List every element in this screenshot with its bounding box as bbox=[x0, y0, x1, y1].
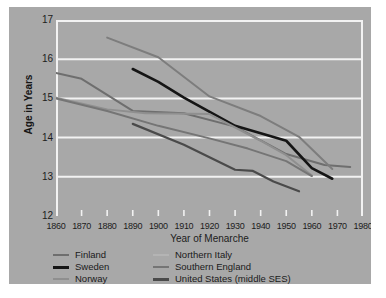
x-tick-label: 1910 bbox=[174, 221, 193, 231]
x-axis-tick-labels: 1860187018801890190019101920193019401950… bbox=[56, 218, 363, 234]
legend-label: Southern England bbox=[175, 261, 251, 273]
legend-column-right: Northern ItalySouthern EnglandUnited Sta… bbox=[153, 249, 291, 284]
legend-swatch-icon bbox=[53, 266, 69, 269]
legend-item: Northern Italy bbox=[153, 249, 291, 261]
y-tick-label: 13 bbox=[33, 172, 53, 182]
x-tick-label: 1940 bbox=[251, 221, 270, 231]
x-axis-title: Year of Menarche bbox=[56, 233, 363, 244]
x-tick-label: 1870 bbox=[72, 221, 91, 231]
x-tick-label: 1970 bbox=[328, 221, 347, 231]
legend-label: Sweden bbox=[75, 261, 109, 273]
x-tick-label: 1980 bbox=[354, 221, 371, 231]
y-axis-title: Age in Years bbox=[23, 60, 34, 150]
x-tick-label: 1900 bbox=[149, 221, 168, 231]
legend-swatch-icon bbox=[53, 254, 69, 256]
legend-label: Finland bbox=[75, 249, 106, 261]
legend-swatch-icon bbox=[53, 278, 69, 280]
chart-legend: FinlandSwedenNorway Northern ItalySouthe… bbox=[53, 249, 353, 284]
legend-item: Sweden bbox=[53, 261, 109, 273]
legend-label: Northern Italy bbox=[175, 249, 232, 261]
y-tick-label: 17 bbox=[33, 15, 53, 25]
y-tick-label: 14 bbox=[33, 133, 53, 143]
legend-swatch-icon bbox=[153, 266, 169, 268]
x-tick-label: 1860 bbox=[47, 221, 66, 231]
chart-figure: 171615141312 Age in Years 18601870188018… bbox=[9, 7, 371, 284]
series-line bbox=[133, 69, 333, 179]
legend-swatch-icon bbox=[153, 254, 169, 256]
legend-item: Norway bbox=[53, 273, 109, 284]
legend-label: United States (middle SES) bbox=[175, 273, 291, 284]
series-line bbox=[107, 38, 332, 169]
x-tick-label: 1930 bbox=[226, 221, 245, 231]
plot-area bbox=[56, 20, 363, 216]
x-tick-label: 1890 bbox=[123, 221, 142, 231]
x-tick-label: 1960 bbox=[302, 221, 321, 231]
legend-item: Southern England bbox=[153, 261, 291, 273]
x-tick-label: 1920 bbox=[200, 221, 219, 231]
legend-item: Finland bbox=[53, 249, 109, 261]
legend-column-left: FinlandSwedenNorway bbox=[53, 249, 109, 284]
y-tick-label: 12 bbox=[33, 211, 53, 221]
y-tick-label: 16 bbox=[33, 54, 53, 64]
legend-label: Norway bbox=[75, 273, 107, 284]
x-tick-label: 1950 bbox=[277, 221, 296, 231]
legend-swatch-icon bbox=[153, 278, 169, 281]
chart-lines bbox=[56, 20, 363, 216]
y-tick-label: 15 bbox=[33, 93, 53, 103]
legend-item: United States (middle SES) bbox=[153, 273, 291, 284]
x-tick-label: 1880 bbox=[98, 221, 117, 231]
